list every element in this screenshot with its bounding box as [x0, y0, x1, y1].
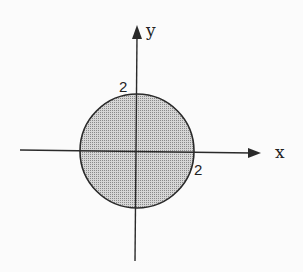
x-intercept-label: 2: [194, 162, 202, 177]
y-axis: [135, 36, 137, 261]
y-axis-arrow-icon: [132, 25, 142, 39]
y-axis-label: y: [146, 22, 156, 39]
x-axis-arrow-icon: [248, 148, 261, 158]
x-axis-label: x: [275, 144, 285, 161]
y-intercept-label: 2: [119, 79, 127, 94]
coordinate-plane: [0, 0, 303, 272]
